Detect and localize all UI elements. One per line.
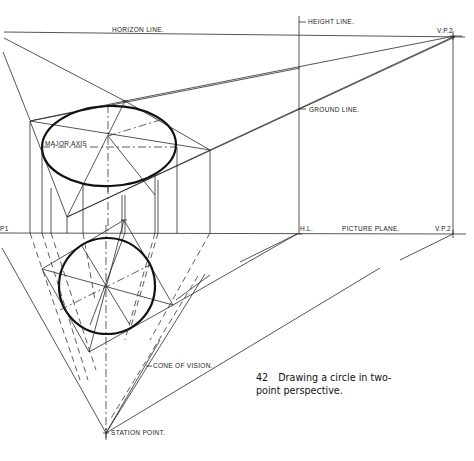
hl-label: H.L. xyxy=(300,225,313,232)
height-line-label: HEIGHT LINE. xyxy=(308,18,354,25)
station-point-label: STATION POINT. xyxy=(111,429,165,436)
caption-line-2: point perspective. xyxy=(256,384,456,397)
figure-caption: 42Drawing a circle in two- point perspec… xyxy=(256,371,456,397)
vp2-top-label: V.P.2 xyxy=(437,27,453,34)
vp2-bottom-label: V.P.2 xyxy=(435,225,451,232)
picture-plane-line xyxy=(0,233,466,234)
caption-line-1: Drawing a circle in two- xyxy=(278,372,391,383)
cone-of-vision-right xyxy=(106,274,205,433)
horizon-line xyxy=(4,32,465,37)
cone-of-vision-label: CONE OF VISION. xyxy=(153,362,213,369)
picture-plane-label: PICTURE PLANE. xyxy=(342,225,400,232)
major-axis-label: MAJOR AXIS xyxy=(45,140,87,147)
figure-number: 42 xyxy=(256,372,268,383)
plan-circle xyxy=(59,238,155,334)
vp1-label: P1 xyxy=(0,225,9,232)
horizon-line-label: HORIZON LINE. xyxy=(112,26,164,33)
ground-line-label: GROUND LINE. xyxy=(309,106,360,113)
